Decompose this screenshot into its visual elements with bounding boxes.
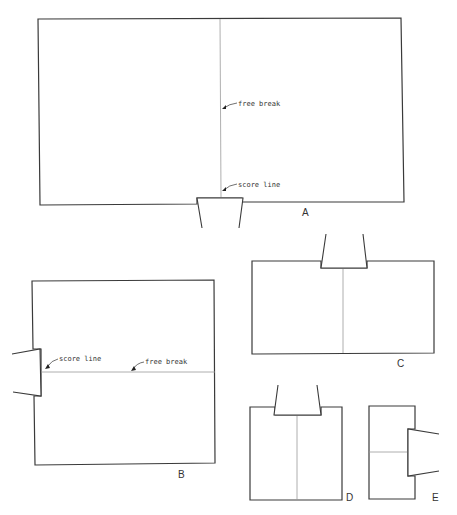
- figure-d-label: D: [346, 492, 353, 503]
- figure-e: E: [369, 406, 439, 503]
- figure-b-label: B: [178, 469, 185, 480]
- figure-b-score-line-arrowhead: [45, 364, 50, 369]
- figure-e-tab: [408, 429, 439, 476]
- figure-a-break-line: [220, 19, 221, 197]
- figure-d-outline: [250, 407, 342, 500]
- figure-b-score-line-label: score line: [59, 355, 101, 363]
- figure-a-tab: [197, 198, 243, 228]
- figure-a-score-line-label: score line: [238, 181, 280, 189]
- figure-c-label: C: [397, 358, 404, 369]
- figure-a-free-break-label: free break: [238, 100, 281, 108]
- figure-c-tab: [321, 234, 367, 268]
- figure-d: D: [250, 385, 353, 503]
- diagram-canvas: free break score line A score line free …: [0, 0, 457, 515]
- figure-b: score line free break B: [12, 280, 215, 480]
- figure-a-label: A: [302, 207, 309, 218]
- figure-a: free break score line A: [38, 18, 404, 228]
- figure-d-tab: [274, 385, 321, 415]
- figure-a-free-break-arrowhead: [222, 105, 226, 109]
- figure-b-tab: [12, 349, 41, 396]
- figure-e-label: E: [432, 492, 439, 503]
- figure-b-free-break-arrowhead: [131, 366, 136, 371]
- figure-a-score-line-arrowhead: [222, 187, 226, 191]
- figure-b-free-break-label: free break: [145, 358, 188, 366]
- figure-b-outline: [32, 280, 215, 465]
- figure-c: C: [252, 234, 434, 369]
